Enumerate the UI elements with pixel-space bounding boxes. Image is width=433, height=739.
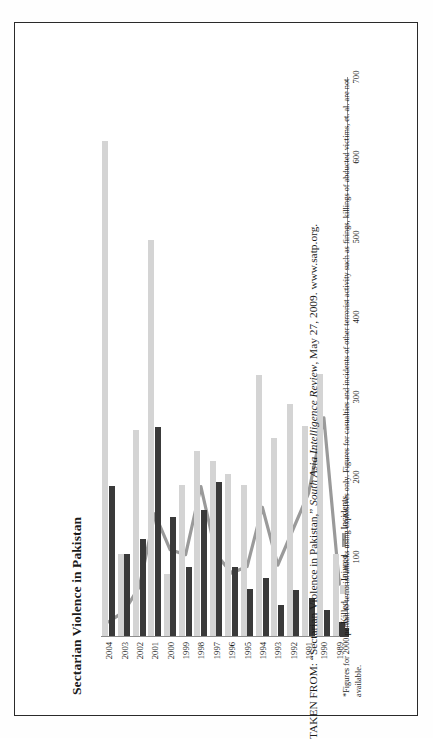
category-label: 2002 <box>133 642 148 676</box>
category-label: 1994 <box>256 642 271 676</box>
source-suffix: , May 27, 2009. www.satp.org. <box>307 224 319 365</box>
category-label: 2004 <box>102 642 117 676</box>
category-label: 2003 <box>118 642 133 676</box>
figure-footnote: *Figures for 2000 pertain to terrorist a… <box>341 61 364 697</box>
bar-killed <box>247 589 253 636</box>
bar-killed <box>232 567 238 636</box>
bar-injured <box>271 438 277 636</box>
bar-killed <box>216 482 222 636</box>
footnote-stage: *Figures for 2000 pertain to terrorist a… <box>341 61 381 697</box>
category-label: 1995 <box>241 642 256 676</box>
figure-source: TAKEN FROM: “Sectarian Violence in Pakis… <box>306 103 320 739</box>
category-label: 1996 <box>225 642 240 676</box>
bar-injured <box>179 485 185 636</box>
category-label: 1993 <box>271 642 286 676</box>
source-prefix: TAKEN FROM: “Sectarian Violence in Pakis… <box>307 506 319 739</box>
bar-injured <box>210 461 216 636</box>
bar-injured <box>194 451 200 636</box>
bar-injured <box>256 375 262 636</box>
figure-frame: Sectarian Violence in Pakistan 198919901… <box>14 22 418 716</box>
bar-injured <box>241 485 247 636</box>
bar-killed <box>201 510 207 636</box>
bar-injured <box>164 574 170 636</box>
source-publication: South Asia Intelligence Review <box>307 365 319 506</box>
bar-injured <box>133 430 139 636</box>
category-label: 1999 <box>179 642 194 676</box>
category-label: 1998 <box>194 642 209 676</box>
bar-injured <box>333 554 339 636</box>
bar-injured <box>102 141 108 636</box>
bar-killed <box>293 590 299 636</box>
category-label: 1997 <box>210 642 225 676</box>
category-label: 1992 <box>287 642 302 676</box>
bar-injured <box>225 474 231 636</box>
bar-injured <box>148 240 154 636</box>
category-label: 2001 <box>148 642 163 676</box>
bar-killed <box>140 539 146 636</box>
bar-killed <box>278 605 284 636</box>
bar-injured <box>118 554 124 636</box>
bar-killed <box>109 486 115 636</box>
source-stage: TAKEN FROM: “Sectarian Violence in Pakis… <box>306 103 326 739</box>
bar-killed <box>155 427 161 636</box>
chart-title: Sectarian Violence in Pakistan <box>69 517 85 695</box>
bar-killed <box>170 517 176 636</box>
bar-injured <box>287 404 293 636</box>
category-label: 2000 <box>164 642 179 676</box>
bar-killed <box>186 567 192 636</box>
bar-killed <box>263 578 269 636</box>
bar-killed <box>124 554 130 636</box>
